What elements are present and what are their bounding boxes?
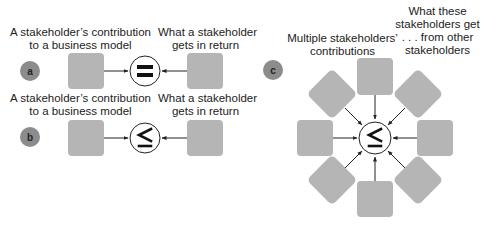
equals-circle bbox=[130, 56, 160, 86]
stakeholder-node-bottom-left bbox=[307, 155, 358, 206]
panel-c: c bbox=[263, 58, 453, 217]
stakeholder-node-top bbox=[357, 58, 393, 95]
return-box bbox=[187, 53, 223, 89]
panel-b-label: b bbox=[27, 132, 33, 143]
stakeholder-node-bottom-right bbox=[393, 155, 444, 206]
diagram-canvas: a b c bbox=[0, 0, 486, 225]
contribution-box bbox=[68, 53, 104, 89]
panel-a: a bbox=[20, 53, 223, 89]
return-box bbox=[187, 120, 223, 156]
panel-c-label: c bbox=[270, 65, 276, 76]
contribution-box bbox=[68, 120, 104, 156]
stakeholder-node-left bbox=[297, 120, 333, 156]
equals-icon-bar-bottom bbox=[137, 73, 153, 77]
equals-icon-bar-top bbox=[137, 65, 153, 69]
stakeholder-node-right bbox=[417, 120, 453, 156]
stakeholder-node-top-right bbox=[393, 69, 444, 120]
stakeholder-node-top-left bbox=[307, 69, 358, 120]
stakeholder-node-bottom bbox=[357, 181, 393, 217]
panel-b: b bbox=[20, 120, 223, 156]
panel-a-label: a bbox=[27, 66, 33, 77]
